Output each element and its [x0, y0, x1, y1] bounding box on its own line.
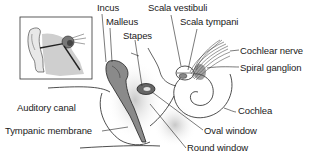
- label-round-window: Round window: [187, 143, 248, 153]
- label-scala-vestibuli: Scala vestibuli: [148, 3, 207, 13]
- label-stapes: Stapes: [123, 31, 152, 41]
- label-malleus: Malleus: [106, 17, 138, 27]
- ear-anatomy-diagram: Incus Malleus Stapes Scala vestibuli Sca…: [0, 0, 311, 158]
- label-tympanic-membrane: Tympanic membrane: [5, 126, 92, 136]
- stapes-shape: [137, 84, 155, 95]
- label-cochlea: Cochlea: [238, 106, 272, 116]
- label-oval-window: Oval window: [204, 126, 257, 136]
- inner-ear-shading: [153, 103, 197, 147]
- scala-cross-section: [176, 66, 194, 80]
- inset-outer-ear: [20, 17, 92, 79]
- label-scala-tympani: Scala tympani: [180, 17, 238, 27]
- label-cochlear-nerve: Cochlear nerve: [240, 46, 303, 56]
- label-incus: Incus: [97, 3, 119, 13]
- label-spiral-ganglion: Spiral ganglion: [240, 63, 301, 73]
- spiral-ganglion-shape: [194, 64, 206, 80]
- label-auditory-canal: Auditory canal: [17, 103, 76, 113]
